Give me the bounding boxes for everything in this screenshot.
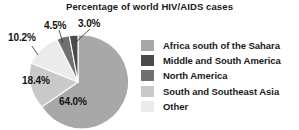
legend-item-africa: Africa south of the Sahara	[141, 38, 299, 53]
legend-item-north-america: North America	[141, 68, 299, 83]
legend-swatch-icon	[141, 70, 154, 81]
pie-label-africa: 64.0%	[59, 96, 87, 107]
leader-line-other	[32, 46, 38, 55]
pie-label-middle-south-america: 3.0%	[78, 18, 100, 29]
legend-item-middle-south-america: Middle and South America	[141, 53, 299, 68]
legend-swatch-icon	[141, 101, 154, 112]
legend-swatch-icon	[141, 40, 154, 51]
legend-item-other: Other	[141, 99, 299, 114]
pie-label-north-america: 4.5%	[44, 20, 66, 31]
legend: Africa south of the Sahara Middle and So…	[141, 38, 299, 114]
chart-title: Percentage of world HIV/AIDS cases	[0, 1, 299, 12]
legend-item-label: North America	[163, 70, 227, 81]
legend-item-label: Middle and South America	[163, 55, 281, 66]
legend-item-label: Africa south of the Sahara	[163, 40, 280, 51]
pie-chart-figure: Percentage of world HIV/AIDS cases	[0, 0, 299, 130]
legend-swatch-icon	[141, 86, 154, 97]
pie-svg	[0, 12, 140, 130]
legend-item-south-southeast-asia: South and Southeast Asia	[141, 84, 299, 99]
pie-label-south-southeast-asia: 18.4%	[22, 75, 50, 86]
pie-label-other: 10.2%	[8, 32, 36, 43]
pie-plot-area: 10.2% 4.5% 3.0% 18.4% 64.0%	[0, 12, 140, 130]
legend-item-label: Other	[163, 101, 188, 112]
legend-swatch-icon	[141, 55, 154, 66]
legend-item-label: South and Southeast Asia	[163, 86, 279, 97]
